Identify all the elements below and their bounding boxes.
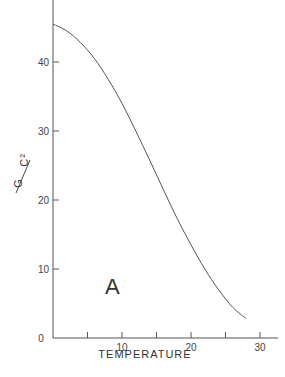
ticks: 010203010203040 — [38, 57, 266, 353]
y-axis-label-c2: C² — [18, 153, 30, 167]
y-tick-label: 10 — [38, 264, 50, 275]
y-tick-label: 40 — [38, 57, 50, 68]
x-tick-label: 0 — [38, 333, 44, 344]
x-tick-label: 30 — [254, 342, 266, 353]
y-tick-label: 20 — [38, 195, 50, 206]
curve-annotation: A — [105, 274, 120, 299]
x-axis-title: TEMPERATURE — [98, 348, 191, 360]
chart: 010203010203040 G C² TEMPERATURE A — [0, 0, 285, 377]
data-curve — [53, 24, 246, 319]
y-tick-label: 30 — [38, 126, 50, 137]
